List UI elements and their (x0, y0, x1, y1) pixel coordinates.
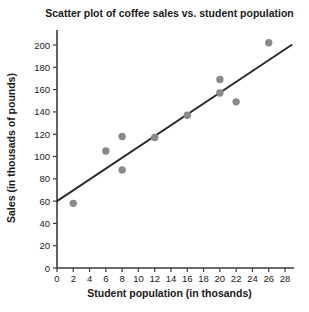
data-point (184, 112, 191, 119)
x-tick-label: 10 (133, 273, 144, 284)
x-tick-label: 8 (119, 273, 124, 284)
x-tick-label: 26 (263, 273, 274, 284)
data-point (118, 166, 125, 173)
y-tick-label: 180 (34, 62, 50, 73)
x-tick-label: 4 (87, 273, 92, 284)
data-point (216, 76, 223, 83)
x-tick-label: 28 (280, 273, 291, 284)
y-tick-label: 20 (39, 240, 50, 251)
x-tick-label: 12 (149, 273, 160, 284)
x-tick-label: 0 (54, 273, 59, 284)
y-tick-label: 160 (34, 84, 50, 95)
data-point (265, 39, 272, 46)
y-tick-label: 140 (34, 106, 50, 117)
data-point (118, 133, 125, 140)
y-tick-label: 0 (45, 263, 50, 274)
x-tick-label: 16 (182, 273, 193, 284)
data-point (102, 147, 109, 154)
y-tick-label: 40 (39, 218, 50, 229)
x-tick-label: 24 (247, 273, 258, 284)
x-tick-label: 14 (166, 273, 177, 284)
x-tick-label: 18 (198, 273, 209, 284)
x-tick-label: 2 (71, 273, 76, 284)
trend-line (57, 45, 292, 201)
x-tick-label: 22 (231, 273, 242, 284)
scatter-plot-figure: Scatter plot of coffee sales vs. student… (0, 0, 309, 312)
data-point (232, 98, 239, 105)
y-tick-label: 200 (34, 40, 50, 51)
x-tick-label: 6 (103, 273, 108, 284)
data-point (216, 89, 223, 96)
y-tick-label: 100 (34, 151, 50, 162)
x-axis-label: Student population (in thosands) (40, 287, 299, 299)
y-tick-label: 120 (34, 129, 50, 140)
data-point (70, 200, 77, 207)
x-tick-label: 20 (215, 273, 226, 284)
data-point (151, 134, 158, 141)
chart-canvas: 0246810121416182022242628020406080100120… (0, 0, 309, 312)
y-tick-label: 60 (39, 196, 50, 207)
y-tick-label: 80 (39, 173, 50, 184)
